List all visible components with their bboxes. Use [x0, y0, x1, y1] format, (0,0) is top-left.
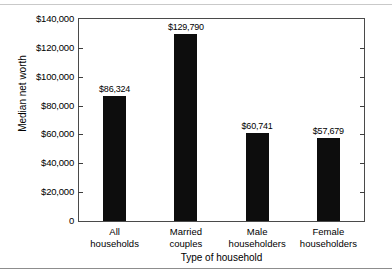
bars-layer: $86,324$129,790$60,741$57,679	[79, 19, 364, 221]
y-tick-mark-left	[78, 106, 83, 107]
bar-value-label: $60,741	[217, 121, 297, 131]
y-tick-mark-right	[360, 48, 365, 49]
y-tick-label: $60,000	[0, 129, 74, 139]
bar	[174, 34, 197, 221]
y-axis-title: Median net worth	[17, 34, 28, 154]
bar-value-label: $129,790	[146, 22, 226, 32]
y-tick-mark-right	[360, 192, 365, 193]
bar	[317, 138, 340, 221]
y-tick-mark-left	[78, 163, 83, 164]
y-tick-mark-left	[78, 192, 83, 193]
y-tick-label: $80,000	[0, 101, 74, 111]
y-tick-mark-right	[360, 77, 365, 78]
y-tick-mark-right	[360, 106, 365, 107]
bar-chart-figure: 0$20,000$40,000$60,000$80,000$100,000$12…	[0, 0, 392, 280]
y-tick-label: $40,000	[0, 158, 74, 168]
x-tick-label: Female householders	[283, 226, 373, 249]
bar	[246, 133, 269, 221]
y-tick-mark-left	[78, 134, 83, 135]
y-tick-label: $100,000	[0, 72, 74, 82]
bar-value-label: $86,324	[75, 84, 155, 94]
y-tick-label: $20,000	[0, 187, 74, 197]
y-tick-label: $120,000	[0, 43, 74, 53]
bottom-divider	[0, 268, 392, 269]
y-tick-mark-right	[360, 163, 365, 164]
y-tick-mark-left	[78, 77, 83, 78]
x-axis-title: Type of household	[78, 252, 365, 263]
y-tick-mark-left	[78, 48, 83, 49]
y-tick-mark-right	[360, 134, 365, 135]
y-tick-label: 0	[0, 216, 74, 226]
bar	[103, 96, 126, 221]
y-tick-label: $140,000	[0, 14, 74, 24]
bar-value-label: $57,679	[288, 126, 368, 136]
